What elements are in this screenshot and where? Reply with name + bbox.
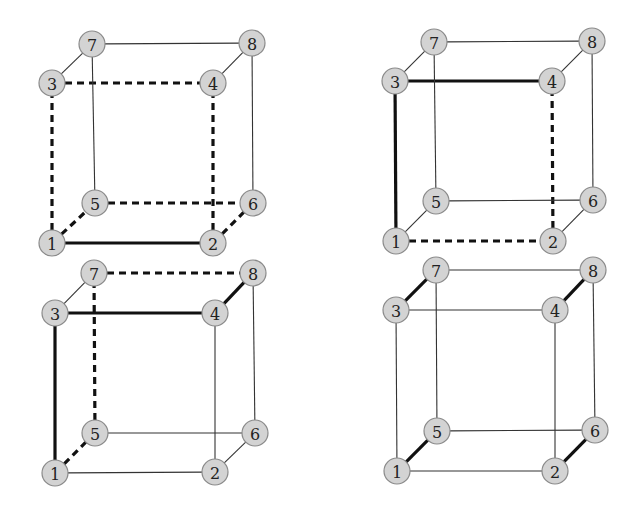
- node-label: 7: [431, 262, 441, 281]
- edge-1-5-thin: [405, 210, 427, 232]
- node-label: 1: [47, 235, 57, 254]
- node-2: 2: [542, 458, 568, 484]
- node-6: 6: [242, 420, 268, 446]
- cube-bottom-left: 12345678: [42, 260, 268, 486]
- edge-2-4-dashed: [552, 94, 553, 228]
- node-8: 8: [239, 30, 265, 56]
- node-label: 2: [210, 464, 220, 483]
- node-4: 4: [539, 68, 565, 94]
- edge-5-6-thin: [449, 200, 580, 201]
- edge-4-8-thin: [561, 50, 583, 72]
- node-7: 7: [81, 260, 107, 286]
- node-6: 6: [240, 190, 266, 216]
- node-1: 1: [383, 228, 409, 254]
- node-label: 6: [250, 425, 260, 444]
- node-label: 7: [87, 36, 97, 55]
- edge-6-8-thin: [593, 283, 595, 417]
- edge-3-7-thick: [405, 279, 427, 301]
- edge-3-7-thin: [61, 53, 82, 74]
- edge-4-8-thick: [564, 279, 584, 300]
- edge-2-6-dashed: [222, 212, 244, 234]
- cube-top-right: 12345678: [382, 28, 606, 254]
- node-7: 7: [423, 257, 449, 283]
- edges: [396, 270, 595, 471]
- node-1: 1: [42, 460, 68, 486]
- node-5: 5: [423, 188, 449, 214]
- node-label: 1: [392, 463, 402, 482]
- node-label: 6: [590, 422, 600, 441]
- node-label: 4: [210, 305, 220, 324]
- edge-6-8-thin: [592, 54, 593, 187]
- node-label: 1: [391, 233, 401, 252]
- cube-bottom-right: 12345678: [383, 257, 608, 484]
- node-label: 6: [588, 192, 598, 211]
- node-label: 7: [89, 265, 99, 284]
- edge-5-6-thin: [450, 430, 582, 431]
- edge-1-3-thick: [395, 94, 396, 228]
- edge-2-6-thick: [564, 439, 586, 461]
- node-1: 1: [384, 458, 410, 484]
- edge-4-8-thin: [222, 52, 243, 73]
- node-label: 5: [90, 425, 100, 444]
- edge-3-7-thin: [64, 282, 85, 303]
- node-label: 5: [432, 423, 442, 442]
- node-2: 2: [540, 228, 566, 254]
- node-label: 2: [208, 235, 218, 254]
- edge-7-8-thin: [447, 41, 579, 42]
- node-8: 8: [580, 257, 606, 283]
- node-5: 5: [82, 190, 108, 216]
- node-3: 3: [382, 68, 408, 94]
- node-label: 4: [208, 75, 218, 94]
- node-label: 6: [248, 195, 258, 214]
- node-4: 4: [202, 300, 228, 326]
- node-4: 4: [542, 297, 568, 323]
- node-3: 3: [39, 70, 65, 96]
- node-3: 3: [42, 300, 68, 326]
- edge-6-8-thin: [253, 286, 255, 420]
- node-5: 5: [424, 418, 450, 444]
- edges: [55, 273, 255, 473]
- node-3: 3: [383, 297, 409, 323]
- node-7: 7: [79, 31, 105, 57]
- node-label: 8: [248, 265, 258, 284]
- node-5: 5: [82, 420, 108, 446]
- node-label: 7: [429, 34, 439, 53]
- edge-1-5-dashed: [64, 442, 86, 464]
- edge-2-6-thin: [224, 442, 245, 463]
- node-8: 8: [240, 260, 266, 286]
- node-label: 3: [50, 305, 60, 324]
- cube-diagrams-canvas: 12345678 12345678 12345678 12345678: [0, 0, 641, 507]
- node-1: 1: [39, 230, 65, 256]
- node-label: 2: [548, 233, 558, 252]
- cube-top-left: 12345678: [39, 30, 266, 256]
- edges: [52, 43, 253, 243]
- node-6: 6: [582, 417, 608, 443]
- node-label: 3: [391, 302, 401, 321]
- node-label: 8: [587, 33, 597, 52]
- node-6: 6: [580, 187, 606, 213]
- edge-4-8-thick: [224, 282, 244, 303]
- edge-1-5-thick: [406, 440, 428, 462]
- nodes: 12345678: [382, 28, 606, 254]
- edges: [395, 41, 593, 241]
- edge-5-7-thin: [92, 57, 95, 190]
- edge-2-6-thin: [562, 209, 584, 231]
- node-label: 3: [47, 75, 57, 94]
- node-label: 2: [550, 463, 560, 482]
- node-label: 5: [90, 195, 100, 214]
- node-label: 1: [50, 465, 60, 484]
- edge-5-7-thin: [434, 55, 436, 188]
- edge-3-7-thin: [404, 51, 425, 72]
- node-label: 3: [390, 73, 400, 92]
- edge-1-2-thin: [68, 472, 202, 473]
- edge-1-3-thin: [396, 323, 397, 458]
- node-label: 4: [550, 302, 560, 321]
- edge-6-8-thin: [252, 56, 253, 190]
- edge-5-7-thin: [436, 283, 437, 418]
- node-4: 4: [200, 70, 226, 96]
- node-2: 2: [202, 459, 228, 485]
- edge-7-8-thin: [105, 43, 239, 44]
- node-label: 8: [247, 35, 257, 54]
- node-label: 4: [547, 73, 557, 92]
- node-7: 7: [421, 29, 447, 55]
